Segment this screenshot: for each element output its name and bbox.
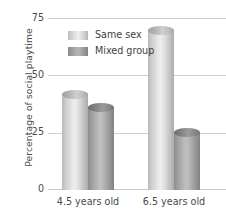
bar-body xyxy=(62,94,88,190)
legend-swatch-icon xyxy=(68,31,88,40)
bar-4-5-same-sex xyxy=(62,90,88,190)
gridline-50 xyxy=(48,75,226,76)
legend-item-mixed-group: Mixed group xyxy=(68,44,154,58)
bar-chart: Percentage of social playtime 75 50 25 0 xyxy=(0,0,226,222)
legend-item-same-sex: Same sex xyxy=(68,28,154,42)
x-tick-label-6-5: 6.5 years old xyxy=(128,196,220,207)
y-tick-label-75: 75 xyxy=(14,13,44,23)
x-tick-label-4-5: 4.5 years old xyxy=(42,196,134,207)
bar-body xyxy=(174,132,200,190)
y-tick-label-50: 50 xyxy=(14,70,44,80)
legend-label: Same sex xyxy=(95,30,142,40)
y-axis-title: Percentage of social playtime xyxy=(23,18,34,178)
y-tick-label-25: 25 xyxy=(14,127,44,137)
bar-cap xyxy=(62,90,88,99)
legend-swatch-icon xyxy=(68,47,88,56)
bar-6-5-mixed-group xyxy=(174,128,200,190)
legend-label: Mixed group xyxy=(95,46,154,56)
bar-cap xyxy=(174,128,200,137)
bar-body xyxy=(88,107,114,190)
chart-legend: Same sex Mixed group xyxy=(68,28,154,60)
bar-4-5-mixed-group xyxy=(88,103,114,190)
gridline-75 xyxy=(48,18,226,19)
y-tick-label-0: 0 xyxy=(14,184,44,194)
bar-cap xyxy=(88,103,114,112)
